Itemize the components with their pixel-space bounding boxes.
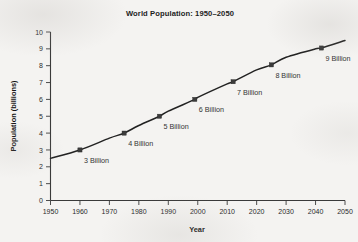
x-tick-label: 1960 <box>72 208 88 215</box>
data-point-label: 5 Billion <box>163 122 188 131</box>
x-tick-label: 2030 <box>278 208 294 215</box>
data-point-label: 3 Billion <box>84 156 109 165</box>
data-point-label: 8 Billion <box>275 71 300 80</box>
y-axis-tick-labels: 012345678910 <box>35 29 50 205</box>
y-tick-label: 10 <box>35 29 43 36</box>
world-population-chart: World Population: 1950–2050 012345678910… <box>0 0 358 242</box>
data-point-marker <box>157 114 161 118</box>
x-tick-label: 2040 <box>308 208 324 215</box>
data-point-marker <box>78 148 82 152</box>
y-tick-label: 6 <box>39 96 43 103</box>
x-axis-tick-labels: 1950196019701980199020002010202020302040… <box>43 201 353 216</box>
population-trend-line <box>51 40 346 158</box>
x-tick-label: 1980 <box>131 208 147 215</box>
x-tick-label: 2050 <box>337 208 353 215</box>
data-point-marker <box>319 46 323 50</box>
y-tick-label: 9 <box>39 45 43 52</box>
x-axis-title: Year <box>189 225 205 234</box>
x-tick-label: 2000 <box>190 208 206 215</box>
chart-title: World Population: 1950–2050 <box>126 9 234 18</box>
data-point-marker <box>193 97 197 101</box>
data-point-label: 9 Billion <box>325 54 350 63</box>
y-tick-label: 7 <box>39 79 43 86</box>
data-point-label: 4 Billion <box>128 139 153 148</box>
y-tick-label: 1 <box>39 180 43 187</box>
data-point-marker <box>231 80 235 84</box>
data-point-label: 7 Billion <box>237 88 262 97</box>
x-tick-label: 2020 <box>249 208 265 215</box>
x-tick-label: 1970 <box>102 208 118 215</box>
data-point-marker <box>269 63 273 67</box>
y-tick-label: 2 <box>39 163 43 170</box>
y-tick-label: 0 <box>39 197 43 204</box>
data-point-label: 6 Billion <box>199 105 224 114</box>
y-tick-label: 8 <box>39 62 43 69</box>
x-tick-label: 2010 <box>219 208 235 215</box>
y-tick-label: 5 <box>39 113 43 120</box>
x-tick-label: 1950 <box>43 208 59 215</box>
data-point-labels: 3 Billion4 Billion5 Billion6 Billion7 Bi… <box>84 54 351 165</box>
y-tick-label: 4 <box>39 130 43 137</box>
x-tick-label: 1990 <box>161 208 177 215</box>
y-tick-label: 3 <box>39 147 43 154</box>
y-axis-title: Population (billions) <box>9 80 18 152</box>
data-point-marker <box>122 131 126 135</box>
